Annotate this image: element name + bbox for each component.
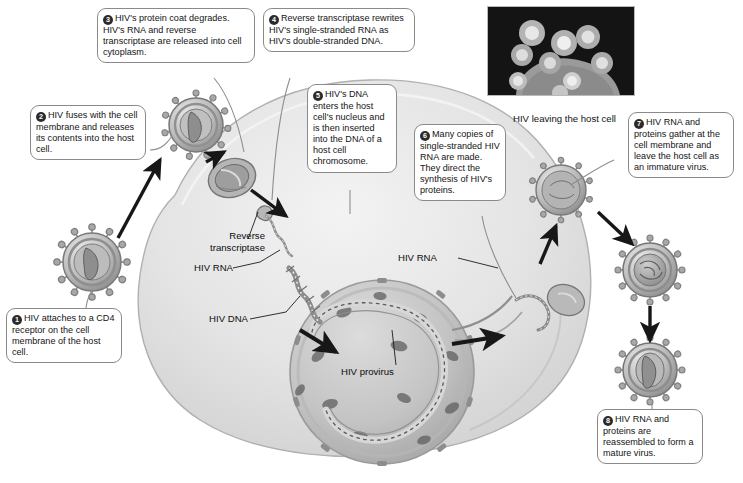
label-hiv-provirus: HIV provirus xyxy=(341,366,394,378)
micrograph-image xyxy=(488,7,634,95)
step-text-4: Reverse transcriptase rewrites HIV's sin… xyxy=(269,13,404,46)
callout-step-4[interactable]: 4Reverse transcriptase rewrites HIV's si… xyxy=(263,8,415,52)
label-hiv-rna-right: HIV RNA xyxy=(398,252,437,264)
label-hiv-dna: HIV DNA xyxy=(198,313,248,325)
virion-immature xyxy=(615,235,685,305)
step-number-3: 3 xyxy=(103,15,113,25)
callout-step-5[interactable]: 5HIV's DNA enters the host cell's nucleu… xyxy=(307,84,397,173)
step-number-5: 5 xyxy=(313,91,323,101)
callout-step-3[interactable]: 3HIV's protein coat degrades. HIV's RNA … xyxy=(97,8,255,63)
step-number-2: 2 xyxy=(36,112,46,122)
callout-step-6[interactable]: 6Many copies of single-stranded HIV RNA … xyxy=(414,124,506,201)
step-text-1: HIV attaches to a CD4 receptor on the ce… xyxy=(12,313,114,357)
callout-step-7[interactable]: 7HIV RNA and proteins gather at the cell… xyxy=(628,112,734,178)
virion-mature xyxy=(615,335,685,405)
label-hiv-rna-left: HIV RNA xyxy=(183,262,233,274)
step-text-6: Many copies of single-stranded HIV RNA a… xyxy=(420,129,500,195)
step-number-8: 8 xyxy=(603,416,613,426)
step-text-5: HIV's DNA enters the host cell's nucleus… xyxy=(313,89,385,166)
callout-step-2[interactable]: 2HIV fuses with the cell membrane and re… xyxy=(30,105,146,160)
callout-step-8[interactable]: 8HIV RNA and proteins are reassembled to… xyxy=(597,409,703,464)
step-text-3: HIV's protein coat degrades. HIV's RNA a… xyxy=(103,13,242,57)
hiv-replication-diagram: 1HIV attaches to a CD4 receptor on the c… xyxy=(0,0,743,483)
micrograph-caption: HIV leaving the host cell xyxy=(513,113,616,124)
step-number-4: 4 xyxy=(269,15,279,25)
step-number-1: 1 xyxy=(12,315,22,325)
callout-step-1[interactable]: 1HIV attaches to a CD4 receptor on the c… xyxy=(6,308,122,363)
step-text-8: HIV RNA and proteins are reassembled to … xyxy=(603,414,693,458)
step-text-2: HIV fuses with the cell membrane and rel… xyxy=(36,110,137,154)
step-text-7: HIV RNA and proteins gather at the cell … xyxy=(634,117,720,172)
electron-micrograph xyxy=(487,6,635,96)
step-number-6: 6 xyxy=(420,131,430,141)
label-reverse-transcriptase-line1: Reverse xyxy=(199,230,265,242)
step-number-7: 7 xyxy=(634,119,644,129)
label-reverse-transcriptase-line2: transcriptase xyxy=(185,242,265,254)
